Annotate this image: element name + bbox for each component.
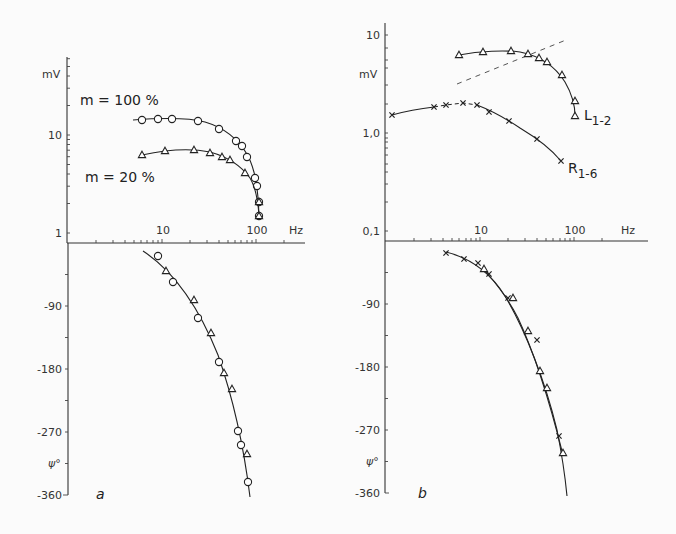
panel-b-phase-y-axis: -90 -180 -270 -360 ψ° xyxy=(355,241,389,500)
ytick-minus90: -90 xyxy=(362,298,380,311)
panel-a-phase-y-axis: -90 -180 -270 -360 ψ° xyxy=(37,243,68,502)
ytick-1: 1 xyxy=(55,227,62,240)
panel-a: 1 10 mV 10 100 xyxy=(37,57,305,502)
annotation-L12: L1-2 xyxy=(584,107,611,128)
ylabel-mv: mV xyxy=(359,68,378,81)
ylabel-mv: mV xyxy=(42,68,61,81)
panel-b-x-axis: 10 100 Hz xyxy=(385,224,648,241)
series-R16-magnitude xyxy=(389,100,563,163)
ylabel-phase: ψ° xyxy=(48,457,61,470)
panel-b: 10 1,0 0,1 mV 10 10 xyxy=(355,23,648,501)
series-L12-magnitude xyxy=(455,47,578,118)
xtick-10: 10 xyxy=(156,224,170,237)
ytick-10: 10 xyxy=(366,29,380,42)
ytick-minus360: -360 xyxy=(37,489,62,502)
ytick-minus90: -90 xyxy=(44,300,62,313)
ytick-minus360: -360 xyxy=(355,487,380,500)
panel-label-a: a xyxy=(96,486,105,502)
xlabel-hz: Hz xyxy=(621,224,635,237)
ytick-minus270: -270 xyxy=(37,426,62,439)
ytick-minus180: -180 xyxy=(37,363,62,376)
xtick-100: 100 xyxy=(565,224,586,237)
annotation-R16: R1-6 xyxy=(568,160,597,181)
ytick-1-0: 1,0 xyxy=(363,127,381,140)
annotation-m100: m = 100 % xyxy=(80,92,159,108)
panel-b-magnitude-y-axis: 10 1,0 0,1 mV xyxy=(359,23,388,241)
panel-a-magnitude-y-axis: 1 10 mV xyxy=(42,57,70,243)
annotation-m20: m = 20 % xyxy=(85,169,155,185)
ytick-10: 10 xyxy=(48,129,62,142)
xtick-100: 100 xyxy=(247,224,268,237)
series-phase-b xyxy=(443,250,567,496)
ytick-minus180: -180 xyxy=(355,361,380,374)
panel-a-x-axis: 10 100 Hz xyxy=(67,224,305,243)
figure: 1 10 mV 10 100 xyxy=(0,0,676,534)
xlabel-hz: Hz xyxy=(289,224,303,237)
panel-label-b: b xyxy=(418,485,427,501)
series-m100-magnitude xyxy=(133,115,263,219)
ytick-minus270: -270 xyxy=(355,424,380,437)
ytick-0-1: 0,1 xyxy=(363,225,381,238)
ylabel-phase: ψ° xyxy=(366,455,379,468)
xtick-10: 10 xyxy=(474,224,488,237)
series-phase-a xyxy=(143,251,252,497)
